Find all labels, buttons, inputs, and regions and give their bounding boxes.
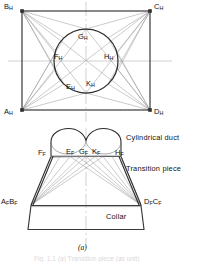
label-C-H: CH (154, 3, 163, 11)
transition-piece-drawing (0, 0, 204, 262)
label-G-H: GH (78, 33, 88, 41)
label-K-F: KF (92, 148, 100, 156)
front-view (28, 128, 144, 248)
label-E-H: EH (66, 83, 75, 91)
label-F-H: FH (54, 53, 63, 61)
label-A-F-B-F: AFBF (1, 198, 18, 206)
label-H-F: HF (115, 149, 124, 157)
annotation-transition-piece: Transition piece (126, 164, 181, 173)
annotation-cylindrical-duct: Cylindrical duct (126, 133, 179, 142)
label-D-F-C-F: DFCF (144, 198, 161, 206)
label-G-F: GF (79, 148, 88, 156)
label-A-H: AH (4, 108, 13, 116)
plan-view (8, 2, 172, 122)
figure-caption: (a) (78, 243, 87, 252)
label-H-H: HH (104, 53, 113, 61)
label-K-H: KH (86, 80, 95, 88)
label-F-F: FF (38, 149, 46, 157)
label-D-H: DH (154, 108, 163, 116)
label-E-F: EF (66, 148, 74, 156)
annotation-collar: Collar (106, 212, 127, 221)
label-B-H: BH (4, 3, 13, 11)
figure-footer-caption: Fig. 1.1 (a) Transition piece (as unit) (34, 255, 140, 262)
